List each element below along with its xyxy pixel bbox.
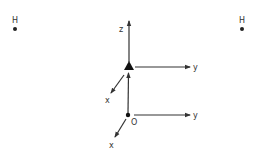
atom-dot-left (13, 27, 17, 31)
origin-label: O (131, 118, 137, 127)
origin-dot (126, 113, 130, 117)
upper-x-axis-arrow (111, 75, 124, 93)
upper-y-axis-label: y (193, 63, 198, 72)
lower-x-axis-label: x (109, 141, 114, 150)
h-label-left: H (12, 16, 18, 25)
upper-coordinate-frame: z y x (105, 21, 198, 105)
lower-coordinate-frame: O y x (109, 111, 198, 150)
coordinate-frames-diagram: H H z y x O y x (0, 0, 256, 151)
triangle-marker-icon (124, 61, 134, 70)
atom-dot-right (240, 27, 244, 31)
z-axis-label: z (119, 25, 123, 34)
hydrogen-atom-left: H (12, 16, 18, 31)
displacement-vector-arrow (128, 73, 129, 113)
upper-x-axis-label: x (105, 96, 110, 105)
lower-y-axis-label: y (193, 111, 198, 120)
lower-x-axis-arrow (115, 119, 126, 137)
hydrogen-atom-right: H (239, 16, 245, 31)
h-label-right: H (239, 16, 245, 25)
